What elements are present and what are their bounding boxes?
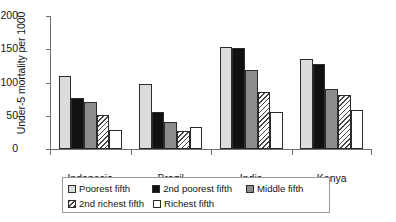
y-axis-tick <box>46 116 50 117</box>
y-axis-tick-label: 150 <box>0 42 18 54</box>
bar-kenya-richest-fifth[interactable] <box>351 110 364 149</box>
legend-swatch-richest-fifth <box>153 200 161 208</box>
x-axis-tick <box>211 150 212 155</box>
bar-group-kenya <box>300 16 363 149</box>
y-axis-tick <box>46 83 50 84</box>
x-axis-tick <box>131 150 132 155</box>
bar-kenya-2nd-richest-fifth[interactable] <box>338 95 351 149</box>
bar-brazil-2nd-poorest-fifth[interactable] <box>152 112 165 149</box>
bar-group-indonesia <box>59 16 122 149</box>
y-axis-tick <box>46 16 50 17</box>
x-axis-tick <box>50 150 51 155</box>
bar-chart: Under-5 mortality per 1000 050100150200 … <box>0 0 396 222</box>
legend-swatch-2nd-poorest-fifth <box>152 185 160 193</box>
y-axis-line <box>50 16 51 150</box>
plot-area: 050100150200 IndonesiaBrazilIndiaKenya <box>50 16 372 150</box>
y-axis-tick-label: 200 <box>0 9 18 21</box>
legend-swatch-2nd-richest-fifth <box>68 200 76 208</box>
bar-india-middle-fifth[interactable] <box>245 70 258 149</box>
chart-legend: Poorest fifth 2nd poorest fifth Middle f… <box>62 177 330 213</box>
legend-item-middle-fifth[interactable]: Middle fifth <box>246 184 303 194</box>
bar-india-richest-fifth[interactable] <box>270 112 283 149</box>
y-axis-tick-label: 50 <box>0 109 18 121</box>
bar-india-2nd-richest-fifth[interactable] <box>258 92 271 149</box>
legend-item-2nd-richest-fifth[interactable]: 2nd richest fifth <box>68 199 144 209</box>
legend-row-bottom: 2nd richest fifth Richest fifth <box>68 196 324 211</box>
legend-label-richest-fifth: Richest fifth <box>164 199 214 209</box>
legend-item-richest-fifth[interactable]: Richest fifth <box>153 199 214 209</box>
legend-row-top: Poorest fifth 2nd poorest fifth Middle f… <box>68 181 324 196</box>
bar-indonesia-poorest-fifth[interactable] <box>59 76 72 149</box>
legend-label-2nd-poorest-fifth: 2nd poorest fifth <box>163 184 232 194</box>
bar-indonesia-2nd-richest-fifth[interactable] <box>97 115 110 149</box>
bar-brazil-richest-fifth[interactable] <box>190 127 203 149</box>
bar-group-brazil <box>139 16 202 149</box>
y-axis-tick <box>46 49 50 50</box>
bar-brazil-2nd-richest-fifth[interactable] <box>177 131 190 149</box>
legend-item-2nd-poorest-fifth[interactable]: 2nd poorest fifth <box>152 184 232 194</box>
bar-india-2nd-poorest-fifth[interactable] <box>232 48 245 149</box>
y-axis-tick-label: 0 <box>0 142 18 154</box>
bar-brazil-poorest-fifth[interactable] <box>139 84 152 149</box>
bar-indonesia-2nd-poorest-fifth[interactable] <box>71 98 84 149</box>
bar-kenya-2nd-poorest-fifth[interactable] <box>313 64 326 149</box>
legend-item-poorest-fifth[interactable]: Poorest fifth <box>68 184 130 194</box>
legend-label-middle-fifth: Middle fifth <box>257 184 303 194</box>
bar-indonesia-middle-fifth[interactable] <box>84 102 97 149</box>
bar-group-india <box>220 16 283 149</box>
legend-swatch-middle-fifth <box>246 185 254 193</box>
x-axis-tick <box>292 150 293 155</box>
bar-kenya-middle-fifth[interactable] <box>325 89 338 149</box>
legend-label-poorest-fifth: Poorest fifth <box>79 184 130 194</box>
bar-brazil-middle-fifth[interactable] <box>164 122 177 149</box>
bar-indonesia-richest-fifth[interactable] <box>109 130 122 149</box>
legend-label-2nd-richest-fifth: 2nd richest fifth <box>79 199 144 209</box>
legend-swatch-poorest-fifth <box>68 185 76 193</box>
bar-kenya-poorest-fifth[interactable] <box>300 59 313 149</box>
x-axis-tick <box>371 150 372 155</box>
bar-india-poorest-fifth[interactable] <box>220 47 233 149</box>
y-axis-title: Under-5 mortality per 1000 <box>15 3 27 143</box>
y-axis-tick-label: 100 <box>0 76 18 88</box>
